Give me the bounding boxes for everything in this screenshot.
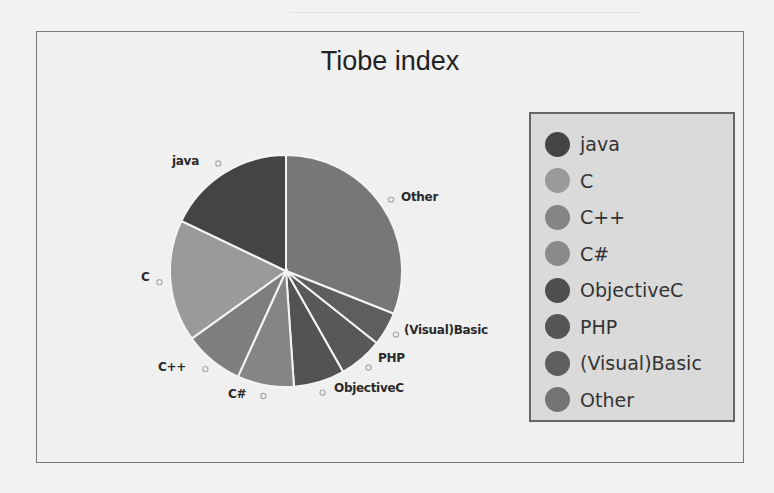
legend-swatch-icon — [545, 278, 570, 303]
scanned-page: ───────────────────────────────── Tiobe … — [0, 0, 774, 493]
legend-item-objective-c: ObjectiveC — [531, 272, 733, 309]
chart-legend: java C C++ C# ObjectiveC PHP — [529, 112, 735, 422]
legend-item-visual-basic: (Visual)Basic — [531, 345, 733, 382]
legend-swatch-icon — [545, 314, 570, 339]
legend-item-cpp: C++ — [531, 199, 733, 236]
legend-swatch-icon — [545, 351, 570, 376]
legend-swatch-icon — [545, 205, 570, 230]
label-anchor-icon — [157, 280, 162, 285]
legend-label: (Visual)Basic — [580, 352, 702, 374]
legend-item-java: java — [531, 126, 733, 163]
pie-chart — [37, 32, 527, 462]
bleed-through-text: ───────────────────────────────── — [290, 4, 641, 21]
label-anchor-icon — [216, 161, 221, 166]
label-anchor-icon — [366, 365, 371, 370]
pie-label-cpp: C++ — [158, 360, 186, 374]
legend-label: C — [580, 170, 593, 192]
legend-item-other: Other — [531, 382, 733, 419]
legend-swatch-icon — [545, 387, 570, 412]
label-anchor-icon — [393, 332, 398, 337]
pie-label-csharp: C# — [228, 387, 246, 401]
legend-swatch-icon — [545, 168, 570, 193]
legend-label: Other — [580, 389, 634, 411]
legend-label: ObjectiveC — [580, 279, 683, 301]
legend-swatch-icon — [545, 241, 570, 266]
legend-label: PHP — [580, 316, 617, 338]
legend-label: C++ — [580, 206, 625, 228]
pie-label-visual-basic: (Visual)Basic — [404, 323, 488, 337]
pie-label-php: PHP — [378, 351, 405, 365]
legend-label: C# — [580, 243, 609, 265]
legend-item-c: C — [531, 163, 733, 200]
pie-label-objective-c: ObjectiveC — [334, 381, 404, 395]
label-anchor-icon — [261, 393, 266, 398]
legend-item-php: PHP — [531, 309, 733, 346]
legend-item-csharp: C# — [531, 236, 733, 273]
label-anchor-icon — [388, 197, 393, 202]
pie-label-other: Other — [401, 190, 438, 204]
legend-label: java — [580, 133, 620, 155]
label-anchor-icon — [203, 367, 208, 372]
chart-frame: Tiobe index java Other C (Visual)Basic P… — [36, 31, 744, 463]
pie-label-java: java — [172, 154, 199, 168]
label-anchor-icon — [320, 390, 325, 395]
legend-swatch-icon — [545, 132, 570, 157]
pie-label-c: C — [141, 270, 150, 284]
